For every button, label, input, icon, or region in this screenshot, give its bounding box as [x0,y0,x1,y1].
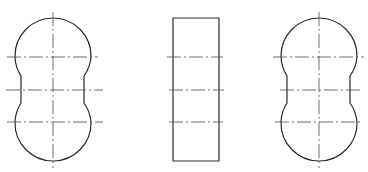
middle-view [167,18,224,161]
left-view [6,12,103,168]
middle-view-rectangle [173,18,219,161]
right-view [273,12,364,168]
technical-drawing-canvas [0,0,368,172]
